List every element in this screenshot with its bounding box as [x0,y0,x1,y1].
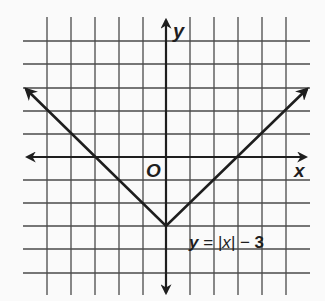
y-axis-label: y [172,20,185,42]
x-axis-label: x [293,160,306,181]
equation-equals: = [198,233,217,252]
equation-abs-x: |x| [218,233,235,252]
coordinate-graph: y x O y = |x| − 3 [0,0,325,301]
equation-constant: 3 [255,233,264,252]
origin-label: O [146,160,161,181]
equation-label: y = |x| − 3 [188,233,264,252]
equation-minus: − [235,233,254,252]
